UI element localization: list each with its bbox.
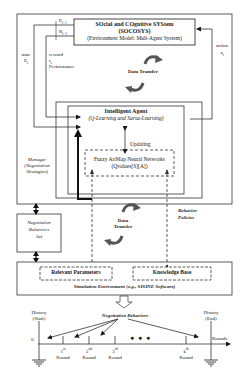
- socosys-title: SOcial and COgnitive SYStem: [74, 21, 195, 27]
- intelligent-agent-subtitle: (Q-Learning and Sarsa-Learning): [68, 116, 184, 122]
- performance-label: Performance: [49, 64, 75, 69]
- diagram-canvas: [0, 0, 249, 386]
- manager-label: Manager: [18, 157, 56, 162]
- nbs-line3: Set: [17, 234, 61, 239]
- relevant-parameters-label: Relevant Parameters: [40, 270, 112, 276]
- round-k-label: Round: [176, 355, 196, 360]
- round-2-label: Round: [79, 355, 99, 360]
- data-transfer-bottom-line2: Transfer: [108, 224, 138, 229]
- history-end-line1: History: [199, 310, 223, 315]
- action-var: at: [214, 50, 230, 58]
- socosys-acronym: (SOCOSYS): [74, 28, 195, 34]
- rounds-axis-label: Rounds: [212, 336, 227, 341]
- round-1-num: 1st: [53, 348, 73, 354]
- history-end-line2: (End): [199, 316, 223, 321]
- data-transfer-top-label: Data Transfer: [118, 69, 168, 74]
- behavior-policies-line1: Behavior: [178, 208, 197, 213]
- simulation-caption: Simulation Environment (e.g., SISINE Sof…: [17, 284, 232, 289]
- ellipsis-dots: ● ● ●: [130, 335, 151, 342]
- hollow-down-arrow: [116, 296, 132, 308]
- negotiation-behaviors-label: Negotiation Behaviors: [85, 313, 165, 318]
- nbs-line1: Negotiation: [17, 220, 61, 225]
- data-transfer-bottom-line1: Data: [108, 218, 138, 223]
- fuzzy-artmap-qvalues: (Qvalues[S][A]): [85, 164, 174, 170]
- state-var: Et: [19, 58, 33, 66]
- round-3-num: 3rd: [105, 348, 125, 354]
- state-label: state: [19, 52, 33, 57]
- history-start-line2: (Start): [27, 316, 51, 321]
- socosys-subtitle: (Environment Model: Muli-Agent System): [74, 36, 195, 42]
- round-3-label: Round: [105, 355, 125, 360]
- axis-zero: 0: [31, 337, 34, 342]
- history-start-line1: History: [27, 310, 51, 315]
- r-next-label: Rt+1: [59, 29, 67, 37]
- ground-icon-end: [204, 360, 218, 366]
- updating-label: Updating: [130, 142, 150, 148]
- round-1-label: Round: [53, 355, 73, 360]
- knowledge-base-label: Knowledge Base: [133, 270, 211, 276]
- action-label: action: [214, 43, 230, 48]
- reward-label: reward: [49, 52, 63, 57]
- fuzzy-artmap-title: Fuzzy ArtMap Neural Networks: [85, 157, 174, 163]
- manager-sub2: Strategies): [18, 169, 56, 174]
- behavior-policies-line2: Policies: [178, 215, 194, 220]
- ground-icon-start: [32, 360, 46, 366]
- reward-feedback-line: [46, 36, 80, 117]
- round-2-num: 2nd: [79, 348, 99, 354]
- round-k-num: kth: [176, 348, 196, 354]
- nbs-line2: Behaviors: [17, 227, 61, 232]
- e-next-label: Et+1: [59, 18, 67, 26]
- manager-sub1: (Negotiation: [18, 163, 56, 168]
- intelligent-agent-title: Intelligent Agent: [68, 108, 184, 114]
- negotiation-fan-arrows: [48, 319, 198, 338]
